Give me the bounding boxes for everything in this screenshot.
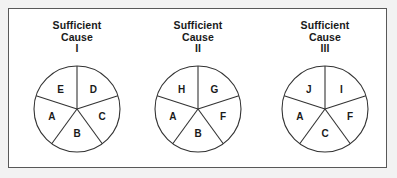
pie-segment-label-4: H <box>178 84 185 95</box>
pie-title-sufficient-cause-ii: Sufficient Cause II <box>133 20 263 55</box>
pie-chart-sufficient-cause-ii: G F B A H <box>133 61 263 157</box>
pie-title-numeral: III <box>260 43 390 55</box>
pie-title-numeral: II <box>133 43 263 55</box>
pie-segment-label-2: C <box>321 128 328 139</box>
pie-segment-label-1: F <box>220 111 226 122</box>
pie-title-line-1: Sufficient <box>12 20 142 32</box>
pie-title-numeral: I <box>12 43 142 55</box>
pie-segment-label-0: I <box>340 84 343 95</box>
pie-svg-ii: G F B A H <box>133 61 263 157</box>
pie-chart-sufficient-cause-i: D C B A E <box>12 61 142 157</box>
pie-chart-sufficient-cause-iii: I F C A J <box>260 61 390 157</box>
pie-diagram-sufficient-cause-i: Sufficient Cause I D C B A E <box>12 9 142 169</box>
pie-svg-i: D C B A E <box>12 61 142 157</box>
pie-title-line-1: Sufficient <box>133 20 263 32</box>
pie-title-line-1: Sufficient <box>260 20 390 32</box>
pie-diagram-sufficient-cause-iii: Sufficient Cause III I F C A J <box>260 9 390 169</box>
pie-segment-label-3: A <box>48 111 55 122</box>
figure-canvas: Sufficient Cause I D C B A E <box>0 0 397 178</box>
pie-segment-label-4: E <box>57 84 64 95</box>
pie-title-sufficient-cause-iii: Sufficient Cause III <box>260 20 390 55</box>
pie-title-sufficient-cause-i: Sufficient Cause I <box>12 20 142 55</box>
pie-segment-label-0: G <box>210 84 218 95</box>
figure-frame: Sufficient Cause I D C B A E <box>8 8 387 168</box>
pie-segment-label-3: A <box>169 111 176 122</box>
pie-segment-label-1: C <box>98 111 105 122</box>
pie-svg-iii: I F C A J <box>260 61 390 157</box>
pie-segment-label-2: B <box>194 128 201 139</box>
pie-segment-label-3: A <box>296 111 303 122</box>
pie-segment-label-4: J <box>306 84 312 95</box>
pie-segment-label-0: D <box>90 84 97 95</box>
pie-segment-label-1: F <box>347 111 353 122</box>
pie-segment-label-2: B <box>73 128 80 139</box>
pie-diagram-sufficient-cause-ii: Sufficient Cause II G F B A H <box>133 9 263 169</box>
